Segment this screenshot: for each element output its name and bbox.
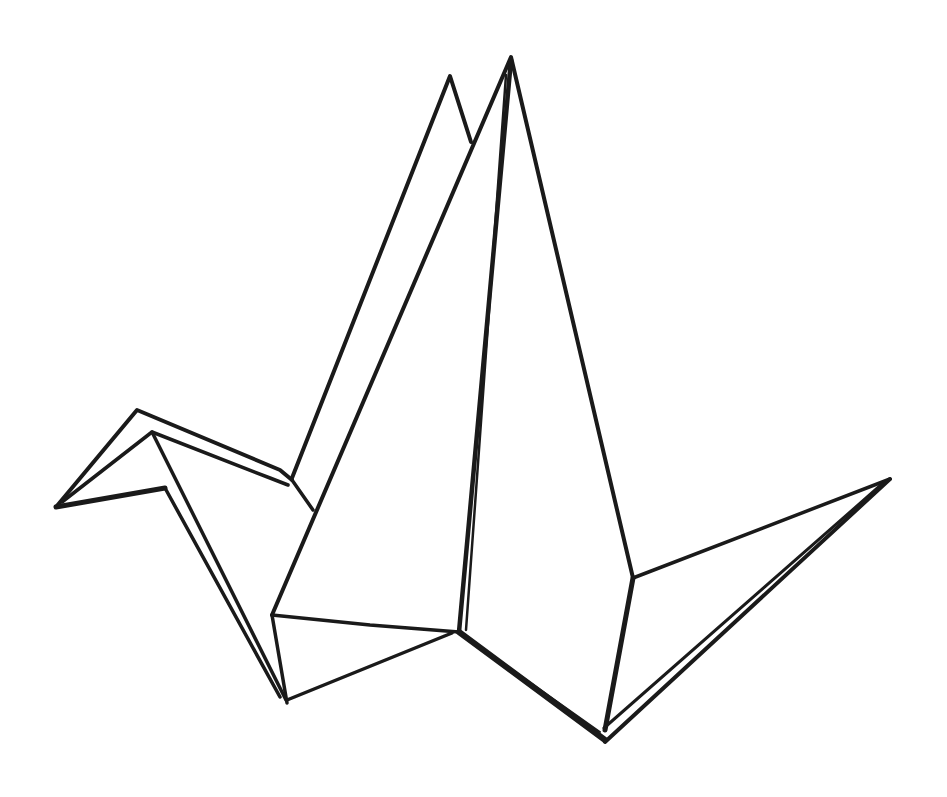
- drawing-canvas: Origami paper crane line drawing: [0, 0, 947, 797]
- origami-crane-drawing: [0, 0, 947, 797]
- front-wing: [272, 57, 633, 632]
- tail: [604, 479, 890, 742]
- back-wing: [292, 76, 471, 510]
- body: [272, 578, 633, 740]
- head-neck: [56, 410, 292, 700]
